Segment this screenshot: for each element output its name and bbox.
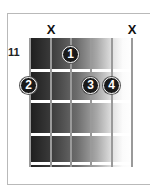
start-fret-label: 11 bbox=[8, 46, 20, 58]
finger-marker: 2 bbox=[20, 77, 37, 94]
muted-string-marker: X bbox=[126, 23, 138, 36]
string-1 bbox=[29, 38, 31, 167]
fret-line bbox=[30, 69, 133, 72]
finger-marker: 3 bbox=[82, 77, 99, 94]
string-6 bbox=[131, 38, 133, 167]
muted-string-marker: X bbox=[45, 23, 57, 36]
string-5 bbox=[111, 38, 113, 167]
finger-marker: 1 bbox=[62, 46, 79, 63]
string-2 bbox=[50, 38, 52, 167]
fret-line bbox=[30, 162, 133, 165]
fret-line bbox=[30, 133, 133, 136]
finger-marker: 4 bbox=[103, 77, 120, 94]
fret-line bbox=[30, 100, 133, 103]
string-4 bbox=[90, 38, 92, 167]
